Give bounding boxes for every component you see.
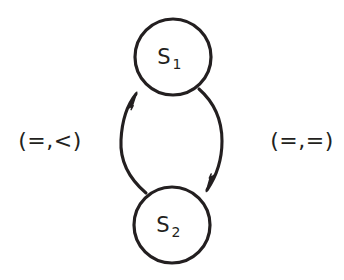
transition-edge-s2-to-s1 bbox=[121, 92, 146, 193]
transition-edge-s1-to-s2 bbox=[199, 89, 222, 192]
state-node-s1[interactable]: S 1 bbox=[135, 19, 211, 95]
state-diagram-graphic: S 1 S 2 (=,<) (=,=) bbox=[0, 0, 344, 280]
transition-path-s2-to-s1 bbox=[121, 94, 146, 193]
state-label-s1-subscript: 1 bbox=[173, 56, 182, 72]
state-label-s2-subscript: 2 bbox=[172, 224, 181, 240]
state-label-s2-base: S bbox=[156, 213, 169, 237]
state-diagram-canvas: S 1 S 2 (=,<) (=,=) bbox=[0, 0, 344, 280]
transition-label-left: (=,<) bbox=[18, 128, 82, 153]
state-node-s2[interactable]: S 2 bbox=[134, 187, 210, 263]
state-label-s1-base: S bbox=[157, 45, 170, 69]
transition-label-right: (=,=) bbox=[270, 128, 334, 153]
arrowhead-icon-to-s1 bbox=[128, 92, 137, 110]
